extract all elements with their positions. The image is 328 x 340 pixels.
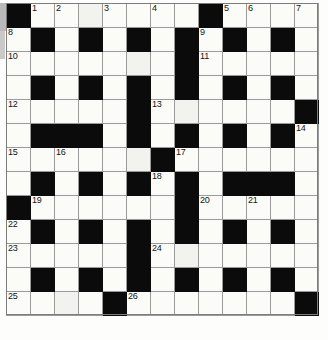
crossword-cell[interactable]	[223, 244, 247, 268]
crossword-cell[interactable]	[199, 172, 223, 196]
crossword-cell[interactable]: 9	[199, 28, 223, 52]
crossword-cell[interactable]	[151, 28, 175, 52]
crossword-cell[interactable]	[223, 196, 247, 220]
crossword-cell[interactable]	[31, 244, 55, 268]
crossword-cell[interactable]: 2	[55, 4, 79, 28]
crossword-cell[interactable]	[151, 52, 175, 76]
crossword-cell[interactable]: 12	[7, 100, 31, 124]
crossword-cell[interactable]	[271, 196, 295, 220]
crossword-cell[interactable]	[151, 124, 175, 148]
crossword-cell[interactable]: 4	[151, 4, 175, 28]
crossword-cell[interactable]	[31, 100, 55, 124]
crossword-cell[interactable]	[199, 100, 223, 124]
crossword-cell[interactable]	[31, 52, 55, 76]
crossword-cell[interactable]	[55, 76, 79, 100]
crossword-cell[interactable]	[103, 172, 127, 196]
crossword-cell[interactable]	[295, 220, 319, 244]
crossword-cell[interactable]: 1	[31, 4, 55, 28]
crossword-cell[interactable]: 13	[151, 100, 175, 124]
crossword-cell[interactable]	[271, 292, 295, 316]
crossword-cell[interactable]	[151, 292, 175, 316]
crossword-cell[interactable]	[247, 268, 271, 292]
crossword-cell[interactable]: 15	[7, 148, 31, 172]
crossword-cell[interactable]	[31, 148, 55, 172]
crossword-cell[interactable]: 23	[7, 244, 31, 268]
crossword-cell[interactable]	[103, 148, 127, 172]
crossword-cell[interactable]	[271, 52, 295, 76]
crossword-cell[interactable]	[223, 148, 247, 172]
crossword-cell[interactable]: 26	[127, 292, 151, 316]
crossword-cell[interactable]	[7, 124, 31, 148]
crossword-cell[interactable]	[271, 4, 295, 28]
crossword-cell[interactable]	[55, 28, 79, 52]
crossword-cell[interactable]: 25	[7, 292, 31, 316]
crossword-cell[interactable]	[295, 148, 319, 172]
crossword-cell[interactable]	[271, 148, 295, 172]
crossword-cell[interactable]	[247, 148, 271, 172]
crossword-cell[interactable]	[79, 52, 103, 76]
crossword-cell[interactable]	[247, 28, 271, 52]
crossword-cell[interactable]	[295, 196, 319, 220]
crossword-cell[interactable]	[223, 100, 247, 124]
crossword-cell[interactable]	[295, 268, 319, 292]
crossword-cell[interactable]: 11	[199, 52, 223, 76]
crossword-cell[interactable]	[103, 244, 127, 268]
crossword-cell[interactable]	[247, 100, 271, 124]
crossword-cell[interactable]	[103, 124, 127, 148]
crossword-cell[interactable]	[103, 52, 127, 76]
crossword-cell[interactable]	[55, 52, 79, 76]
crossword-cell[interactable]	[79, 100, 103, 124]
crossword-cell[interactable]	[127, 4, 151, 28]
crossword-cell[interactable]	[175, 100, 199, 124]
crossword-cell[interactable]: 18	[151, 172, 175, 196]
crossword-cell[interactable]: 8	[7, 28, 31, 52]
crossword-cell[interactable]	[199, 244, 223, 268]
crossword-cell[interactable]	[295, 28, 319, 52]
crossword-cell[interactable]: 6	[247, 4, 271, 28]
crossword-cell[interactable]	[151, 76, 175, 100]
crossword-cell[interactable]	[79, 148, 103, 172]
crossword-cell[interactable]	[247, 292, 271, 316]
crossword-cell[interactable]: 5	[223, 4, 247, 28]
crossword-cell[interactable]	[127, 52, 151, 76]
crossword-cell[interactable]: 3	[103, 4, 127, 28]
crossword-cell[interactable]	[199, 268, 223, 292]
crossword-cell[interactable]	[199, 220, 223, 244]
crossword-cell[interactable]	[103, 196, 127, 220]
crossword-cell[interactable]: 10	[7, 52, 31, 76]
crossword-cell[interactable]	[151, 220, 175, 244]
crossword-cell[interactable]	[247, 220, 271, 244]
crossword-cell[interactable]	[247, 52, 271, 76]
crossword-cell[interactable]	[103, 28, 127, 52]
crossword-cell[interactable]	[127, 196, 151, 220]
crossword-cell[interactable]	[199, 124, 223, 148]
crossword-cell[interactable]	[295, 244, 319, 268]
crossword-cell[interactable]	[103, 220, 127, 244]
crossword-cell[interactable]	[295, 76, 319, 100]
crossword-cell[interactable]	[55, 292, 79, 316]
crossword-cell[interactable]	[175, 4, 199, 28]
crossword-cell[interactable]	[31, 292, 55, 316]
crossword-cell[interactable]	[295, 52, 319, 76]
crossword-cell[interactable]: 20	[199, 196, 223, 220]
crossword-cell[interactable]: 19	[31, 196, 55, 220]
crossword-cell[interactable]	[79, 244, 103, 268]
crossword-cell[interactable]	[175, 292, 199, 316]
crossword-cell[interactable]	[151, 196, 175, 220]
crossword-cell[interactable]	[295, 172, 319, 196]
crossword-cell[interactable]	[103, 268, 127, 292]
crossword-cell[interactable]: 14	[295, 124, 319, 148]
crossword-cell[interactable]: 24	[151, 244, 175, 268]
crossword-cell[interactable]	[103, 76, 127, 100]
crossword-cell[interactable]	[79, 292, 103, 316]
crossword-cell[interactable]	[103, 100, 127, 124]
crossword-grid[interactable]: 1234567891011121314151617181920212223242…	[6, 3, 319, 316]
crossword-cell[interactable]	[7, 268, 31, 292]
crossword-cell[interactable]: 17	[175, 148, 199, 172]
crossword-cell[interactable]: 21	[247, 196, 271, 220]
crossword-cell[interactable]	[55, 196, 79, 220]
crossword-cell[interactable]	[199, 148, 223, 172]
crossword-cell[interactable]	[223, 52, 247, 76]
crossword-cell[interactable]	[55, 172, 79, 196]
crossword-cell[interactable]	[151, 268, 175, 292]
